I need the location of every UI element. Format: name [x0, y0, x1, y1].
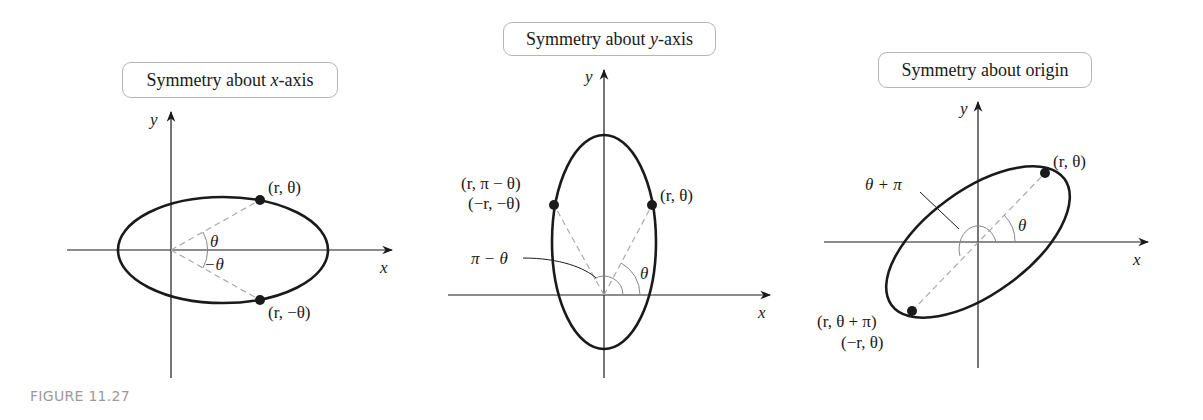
panel1-angle-neg-theta: −θ [204, 255, 224, 274]
panel2-point-right [647, 200, 657, 210]
panel3-angle-theta: θ [1018, 216, 1026, 235]
panel2-angle-arc-theta [621, 263, 640, 295]
figure-canvas: x y (r, θ) (r, −θ) θ −θ x y (r, θ) (r, π… [0, 0, 1203, 420]
panel1: x y (r, θ) (r, −θ) θ −θ [67, 110, 392, 378]
panel3-angle-arc-theta [1004, 215, 1015, 242]
panel2-x-label: x [757, 303, 766, 322]
panel1-angle-theta: θ [210, 232, 218, 251]
panel3-point-lower-label-1: (r, θ + π) [817, 312, 877, 331]
panel2-point-left-label-1: (r, π − θ) [461, 174, 521, 193]
panel3-angle-theta-plus-pi: θ + π [865, 175, 902, 194]
panel3-leader-line [920, 192, 959, 229]
panel3-point-upper [1040, 168, 1050, 178]
panel2-point-left-label-2: (−r, −θ) [468, 194, 520, 213]
panel2-ray-left [554, 205, 604, 295]
panel1-y-label: y [148, 110, 158, 129]
panel2-angle-theta: θ [640, 264, 648, 283]
panel1-point-upper [255, 195, 265, 205]
panel1-point-lower-label: (r, −θ) [268, 303, 311, 322]
panel3-point-upper-label: (r, θ) [1053, 152, 1086, 171]
panel2-point-left [549, 200, 559, 210]
panel2-leader-line [523, 258, 596, 278]
panel3-x-label: x [1132, 250, 1141, 269]
panel1-x-label: x [379, 258, 388, 277]
panel2-point-right-label: (r, θ) [660, 186, 693, 205]
figure-caption: FIGURE 11.27 [30, 388, 130, 404]
panel1-point-lower [255, 295, 265, 305]
panel3-y-label: y [958, 99, 968, 118]
panel1-point-upper-label: (r, θ) [268, 178, 301, 197]
panel2-y-label: y [583, 67, 593, 86]
panel3: x y (r, θ) (r, θ + π) (−r, θ) θ θ + π [817, 99, 1148, 368]
panel3-point-lower [907, 306, 917, 316]
panel2-angle-pi-minus-theta: π − θ [471, 249, 508, 268]
panel2: x y (r, θ) (r, π − θ) (−r, −θ) θ π − θ [448, 67, 770, 378]
panel3-point-lower-label-2: (−r, θ) [841, 333, 884, 352]
